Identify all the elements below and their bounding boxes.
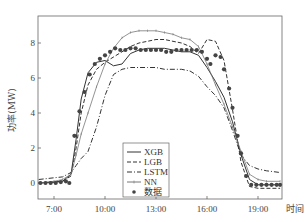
data-point [67,181,71,185]
data-point [54,181,58,185]
data-point [259,183,263,187]
data-point [200,50,204,54]
legend-label: XGB [144,147,163,157]
data-point [108,50,112,54]
data-point [149,48,153,52]
data-point [154,48,158,52]
data-point [164,50,168,54]
data-point [98,57,102,61]
data-point [190,48,194,52]
x-tick-label: 10:00 [95,204,116,214]
y-tick-label: 6 [31,73,36,83]
data-point [103,53,107,57]
data-point [59,180,63,184]
data-point [43,181,47,185]
data-point [244,174,248,178]
data-point [219,55,223,59]
data-point [222,67,226,71]
legend-marker-icon [132,190,136,194]
data-point [254,183,258,187]
data-point [236,134,240,138]
data-point [174,48,178,52]
data-point [185,48,189,52]
data-point [77,109,81,113]
data-point [278,183,282,187]
legend-label: LSTM [144,167,168,177]
legend-label: LGB [144,157,162,167]
x-tick-label: 16:00 [197,204,218,214]
data-point [195,48,199,52]
y-tick-label: 8 [31,38,36,48]
power-forecast-chart: 02468 7:0010:0013:0016:0019:00 功率(MW) 时间… [0,0,306,222]
y-tick-label: 0 [31,178,36,188]
data-point [113,46,117,50]
data-point [208,62,212,66]
data-point [205,57,209,61]
data-point [144,48,148,52]
data-point [179,48,183,52]
legend-label: 数据 [144,186,162,197]
data-point [270,183,274,187]
data-point [264,183,268,187]
data-point [239,151,243,155]
data-point [49,181,53,185]
data-point [83,90,87,94]
data-point [249,183,253,187]
data-point [159,48,163,52]
x-tick-label: 19:00 [248,204,269,214]
y-tick-label: 4 [31,108,36,118]
data-point [134,46,138,50]
data-point [123,48,127,52]
data-point [93,62,97,66]
data-point [88,72,92,76]
data-point [128,46,132,50]
data-point [169,50,173,54]
data-point [139,48,143,52]
data-point [230,106,234,110]
data-point [213,53,217,57]
y-tick-label: 2 [31,143,36,153]
legend: XGBLGBLSTMNN数据 [123,143,169,197]
data-point [227,86,231,90]
data-point [118,48,122,52]
y-axis-label: 功率(MW) [6,88,17,132]
data-point [72,134,76,138]
x-tick-label: 13:00 [146,204,167,214]
x-tick-label: 7:00 [46,204,63,214]
x-axis-label: 时间 [286,203,304,214]
legend-label: NN [144,177,157,187]
